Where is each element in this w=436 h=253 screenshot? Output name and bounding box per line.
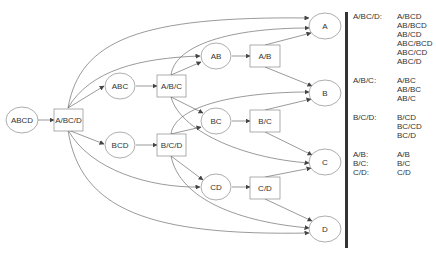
svg-text:BCD: BCD bbox=[112, 141, 129, 150]
edge-b_c_d-to-bc bbox=[171, 127, 201, 134]
edge-a_b_c-to-c bbox=[171, 97, 309, 163]
edge-a_b_c-to-a bbox=[171, 28, 309, 75]
svg-text:B: B bbox=[322, 89, 327, 98]
edge-a_b-to-a bbox=[265, 33, 311, 45]
node-b: B bbox=[309, 80, 341, 106]
edge-b_c_d-to-cd bbox=[171, 156, 203, 180]
svg-text:D: D bbox=[322, 225, 328, 234]
node-abc: ABC bbox=[105, 73, 135, 99]
node-a: A bbox=[309, 13, 341, 39]
svg-text:A/B/C: A/B/C bbox=[161, 82, 182, 91]
legend-key-c_d: C/D: bbox=[353, 168, 369, 178]
svg-text:C/D: C/D bbox=[258, 184, 272, 193]
edge-a_b_c-to-bc bbox=[171, 97, 203, 113]
svg-text:ABC: ABC bbox=[112, 82, 129, 91]
edge-b_c_d-to-b bbox=[171, 92, 309, 134]
legend-key-a_b_c: A/B/C: bbox=[353, 76, 376, 86]
node-bcd: BCD bbox=[105, 132, 135, 158]
node-c_d: C/D bbox=[250, 177, 280, 199]
svg-text:B/C: B/C bbox=[258, 117, 272, 126]
node-abcd: ABCD bbox=[6, 107, 38, 133]
svg-text:A: A bbox=[322, 22, 328, 31]
svg-text:A/BC/D: A/BC/D bbox=[55, 116, 82, 125]
edge-b_c_d-to-d bbox=[171, 156, 309, 228]
svg-text:BC: BC bbox=[210, 117, 221, 126]
svg-text:A/B: A/B bbox=[259, 52, 272, 61]
edge-a_bc_d-to-abc bbox=[68, 86, 104, 108]
node-b_c_d: B/C/D bbox=[157, 134, 186, 156]
node-cd: CD bbox=[201, 174, 231, 200]
node-a_bc_d: A/BC/D bbox=[54, 109, 83, 131]
node-bc: BC bbox=[201, 108, 231, 134]
legend-val: BC/D bbox=[397, 131, 416, 141]
legend-val: AB/C bbox=[397, 94, 416, 104]
node-c: C bbox=[309, 149, 341, 175]
separation-sequence-diagram: ABCD A/BC/D ABC A/B/C BCD B/C/D AB A/B bbox=[0, 0, 436, 253]
node-a_b_c: A/B/C bbox=[157, 75, 186, 97]
svg-text:B/C/D: B/C/D bbox=[161, 141, 183, 150]
legend-key-b_c_d: B/C/D: bbox=[353, 113, 377, 123]
legend-divider bbox=[345, 12, 348, 248]
svg-text:C: C bbox=[322, 158, 328, 167]
edge-a_b-to-b bbox=[265, 67, 312, 86]
edge-b_c-to-b bbox=[265, 99, 311, 110]
node-a_b: A/B bbox=[250, 45, 280, 67]
svg-text:ABCD: ABCD bbox=[11, 116, 33, 125]
svg-text:AB: AB bbox=[211, 52, 222, 61]
legend-val: ABC/D bbox=[397, 57, 421, 67]
svg-text:CD: CD bbox=[210, 183, 222, 192]
legend-val: C/D bbox=[397, 168, 411, 178]
node-d: D bbox=[309, 216, 341, 242]
edge-a_bc_d-to-bcd bbox=[68, 130, 104, 144]
edge-b_c-to-c bbox=[265, 132, 312, 155]
node-b_c: B/C bbox=[250, 110, 280, 132]
edge-c_d-to-d bbox=[265, 199, 312, 221]
node-ab: AB bbox=[201, 43, 231, 69]
edge-a_b_c-to-ab bbox=[171, 62, 201, 75]
legend-key-a_bc_d: A/BC/D: bbox=[353, 12, 382, 22]
edge-c_d-to-c bbox=[265, 168, 311, 177]
